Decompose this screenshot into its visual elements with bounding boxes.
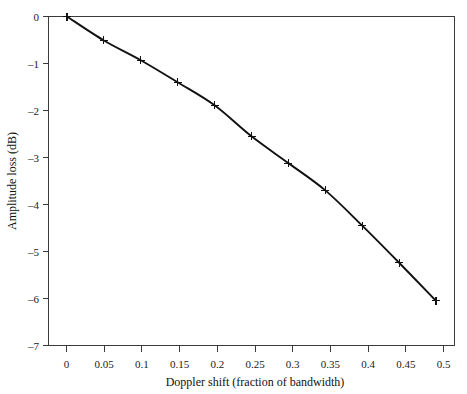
x-tick-label: 0 (64, 358, 70, 370)
amplitude-loss-line-chart: 0 –1 –2 –3 –4 –5 (0, 0, 467, 394)
x-tick-label: 0.15 (170, 358, 190, 370)
y-tick-label: 0 (34, 11, 40, 23)
x-tick-label: 0.05 (95, 358, 115, 370)
x-tick-label: 0.3 (286, 358, 300, 370)
y-tick-label: –7 (27, 340, 40, 352)
y-tick-label: –2 (27, 105, 39, 117)
x-tick-label: 0.35 (321, 358, 341, 370)
x-tick-label: 0.5 (437, 358, 451, 370)
x-tick-label: 0.2 (210, 358, 224, 370)
y-tick-label: –6 (27, 293, 40, 305)
y-tick-label: –5 (27, 246, 40, 258)
y-tick-label: –4 (27, 199, 40, 211)
x-axis-title: Doppler shift (fraction of bandwidth) (166, 375, 345, 389)
x-tick-label: 0.45 (396, 358, 416, 370)
chart-background (0, 0, 467, 394)
x-tick-label: 0.25 (245, 358, 265, 370)
chart-figure: 0 –1 –2 –3 –4 –5 (0, 0, 467, 394)
y-tick-label: –1 (27, 58, 39, 70)
x-tick-label: 0.4 (361, 358, 375, 370)
y-axis-title: Amplitude loss (dB) (5, 132, 19, 230)
x-tick-label: 0.1 (135, 358, 149, 370)
y-tick-label: –3 (27, 152, 40, 164)
